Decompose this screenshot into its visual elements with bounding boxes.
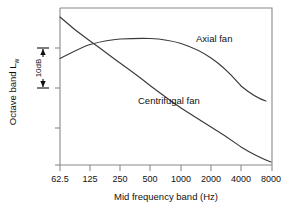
chart-canvas: 62.5 125 250 500 1000 2000 4000 8000 Mid… [0,0,293,210]
series-curve-axial-fan [60,38,266,101]
series-curve-centrifugal-fan [60,17,271,162]
y-axis-title: Octave band Lw [7,58,20,125]
scale-bar-10db: 10dB [34,48,49,88]
x-tick-label-2: 250 [112,174,127,184]
scale-bar-arrow-down [40,81,45,87]
x-tick-label-7: 8000 [261,174,281,184]
x-tick-label-5: 2000 [201,174,221,184]
y-axis-title-main: Octave band L [7,63,18,125]
scale-bar-arrow-up [40,49,45,55]
x-tick-label-1: 125 [82,174,97,184]
x-axis-ticks [60,165,272,171]
x-tick-label-0: 62.5 [51,174,69,184]
y-axis-title-subscript: w [13,58,20,64]
series-label-centrifugal-fan: Centrifugal fan [138,95,200,106]
x-tick-label-3: 500 [142,174,157,184]
x-tick-label-4: 1000 [171,174,191,184]
series-label-axial-fan: Axial fan [196,33,232,44]
y-axis-ticks [55,48,60,165]
svg-text:Octave band Lw: Octave band Lw [7,58,20,125]
fan-noise-spectrum-chart: 62.5 125 250 500 1000 2000 4000 8000 Mid… [0,0,293,210]
x-tick-label-6: 4000 [231,174,251,184]
x-axis-title: Mid frequency band (Hz) [114,191,218,202]
scale-bar-label: 10dB [34,59,43,78]
plot-frame [60,8,272,165]
